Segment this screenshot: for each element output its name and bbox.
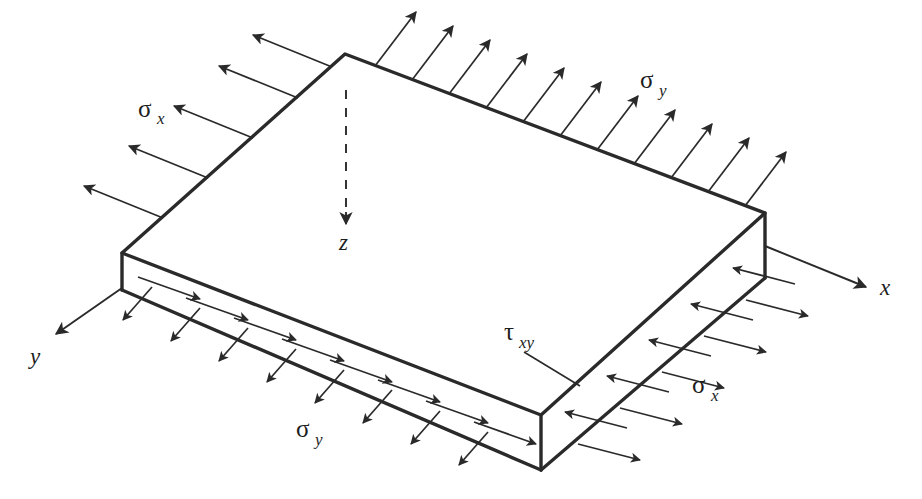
sigma-y-top-subscript: y bbox=[657, 81, 667, 100]
stress-arrow bbox=[186, 298, 248, 320]
stress-arrow bbox=[174, 106, 253, 138]
sigma-x-right-symbol: σ bbox=[692, 371, 706, 398]
stress-arrow bbox=[671, 124, 712, 178]
z-axis-label: z bbox=[338, 230, 348, 255]
stress-arrow bbox=[84, 186, 163, 218]
stress-arrow bbox=[560, 82, 601, 136]
stress-arrow bbox=[607, 376, 669, 392]
axes-group: x y z bbox=[28, 90, 891, 369]
stress-arrow bbox=[129, 146, 208, 178]
stress-arrow bbox=[330, 360, 392, 382]
plate-stress-svg: x y z σ x bbox=[0, 0, 922, 499]
tau-xy-symbol: τ bbox=[504, 318, 514, 345]
y-axis-label: y bbox=[28, 344, 41, 369]
stress-arrow bbox=[620, 408, 682, 424]
sigma-y-top-arrows: σ y bbox=[375, 12, 786, 206]
stress-arrow bbox=[634, 110, 675, 164]
stress-arrow bbox=[486, 54, 527, 108]
stress-arrow bbox=[745, 152, 786, 206]
stress-arrow bbox=[578, 444, 640, 460]
stress-arrow bbox=[449, 40, 490, 94]
stress-arrow bbox=[597, 96, 638, 150]
sigma-x-right-subscript: x bbox=[710, 386, 719, 405]
stress-arrow bbox=[219, 66, 298, 98]
sigma-y-front-symbol: σ bbox=[296, 415, 310, 442]
stress-arrow bbox=[426, 401, 488, 423]
stress-arrow bbox=[523, 68, 564, 122]
tau-xy-subscript: xy bbox=[518, 333, 535, 352]
stress-arrow bbox=[708, 138, 749, 192]
stress-arrow bbox=[474, 422, 536, 444]
stress-arrow bbox=[565, 412, 627, 428]
sigma-x-top-arrows: σ x bbox=[84, 35, 332, 218]
stress-arrow bbox=[691, 304, 753, 320]
stress-arrow bbox=[746, 300, 808, 316]
plate-bottom-right-edge bbox=[541, 278, 765, 470]
stress-arrow bbox=[253, 35, 332, 67]
front-left-face-arrows: σ y bbox=[123, 277, 536, 465]
stress-arrow bbox=[375, 12, 416, 66]
stress-arrow bbox=[704, 336, 766, 352]
sigma-y-front-subscript: y bbox=[313, 430, 323, 449]
stress-arrow bbox=[378, 380, 440, 402]
x-axis-label: x bbox=[879, 275, 891, 300]
stress-arrow bbox=[282, 339, 344, 361]
tau-xy-callout: τ xy bbox=[504, 318, 580, 386]
stress-diagram-figure: x y z σ x bbox=[0, 0, 922, 499]
stress-arrow bbox=[649, 340, 711, 356]
sigma-x-top-subscript: x bbox=[156, 109, 165, 128]
stress-arrow bbox=[412, 26, 453, 80]
y-axis-line bbox=[56, 288, 122, 334]
sigma-x-top-symbol: σ bbox=[138, 95, 152, 122]
front-right-face-arrows: σ x bbox=[565, 268, 808, 460]
tau-xy-leader-line bbox=[524, 352, 580, 386]
sigma-y-top-symbol: σ bbox=[640, 66, 654, 93]
stress-arrow bbox=[234, 318, 296, 340]
